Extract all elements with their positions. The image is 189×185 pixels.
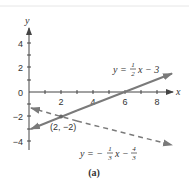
x-axis: x 2 4 6 8 bbox=[29, 86, 181, 107]
point-label: (2, −2) bbox=[50, 122, 76, 132]
y-tick-label: 0 bbox=[18, 88, 23, 98]
equation-solid: y = 1 2 x − 3 bbox=[112, 61, 159, 78]
y-tick-label: −4 bbox=[13, 137, 23, 147]
equation-dashed: y = − 1 3 x − 4 3 bbox=[79, 145, 137, 162]
y-axis-label: y bbox=[24, 15, 30, 26]
chart-canvas: y 4 2 0 −2 −4 x 2 4 6 8 bbox=[0, 0, 189, 185]
x-tick-label: 6 bbox=[122, 97, 127, 107]
svg-text:2: 2 bbox=[131, 70, 135, 78]
svg-text:1: 1 bbox=[131, 61, 135, 69]
figure-caption: (a) bbox=[88, 167, 100, 179]
intersection-point bbox=[59, 115, 63, 119]
x-tick-label: 2 bbox=[58, 97, 63, 107]
x-axis-label: x bbox=[175, 86, 181, 97]
y-tick-label: 4 bbox=[18, 39, 23, 49]
svg-text:y = −: y = − bbox=[79, 148, 103, 159]
figure: y 4 2 0 −2 −4 x 2 4 6 8 bbox=[0, 0, 189, 185]
series-solid-line bbox=[31, 74, 172, 130]
svg-text:3: 3 bbox=[107, 154, 112, 162]
y-axis: y 4 2 0 −2 −4 bbox=[13, 15, 31, 150]
svg-text:x − 3: x − 3 bbox=[137, 64, 159, 75]
svg-text:y =: y = bbox=[112, 64, 127, 75]
svg-text:x −: x − bbox=[114, 148, 129, 159]
svg-text:1: 1 bbox=[108, 145, 112, 153]
x-tick-label: 8 bbox=[154, 97, 159, 107]
y-tick-label: 2 bbox=[18, 63, 23, 73]
y-tick-label: −2 bbox=[13, 112, 23, 122]
svg-text:4: 4 bbox=[132, 145, 136, 153]
svg-text:3: 3 bbox=[131, 154, 136, 162]
